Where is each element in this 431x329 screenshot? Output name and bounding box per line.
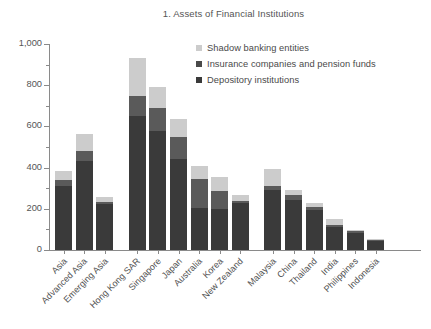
bar-segment <box>191 179 208 208</box>
bar-segment <box>170 119 187 137</box>
bar-segment <box>367 239 384 240</box>
bar-indonesia <box>367 44 384 250</box>
bar-segment <box>211 191 228 209</box>
bar-segment <box>232 201 249 203</box>
y-axis-tick <box>44 126 49 127</box>
chart-figure: 1. Assets of Financial Institutions Shad… <box>0 0 431 329</box>
x-axis-tick <box>158 250 159 254</box>
y-axis-minor-tick <box>46 147 49 148</box>
bar-segment <box>191 208 208 250</box>
bar-segment <box>129 58 146 95</box>
bar-segment <box>306 203 323 208</box>
bar-china <box>285 44 302 250</box>
x-axis-label: Malaysia <box>245 256 277 288</box>
bar-korea <box>211 44 228 250</box>
bar-segment <box>191 166 208 179</box>
y-axis-minor-tick <box>46 229 49 230</box>
x-axis-tick <box>84 250 85 254</box>
bar-segment <box>347 233 364 251</box>
x-axis-tick <box>64 250 65 254</box>
bar-segment <box>326 227 343 250</box>
bar-segment <box>211 209 228 250</box>
bar-asia <box>55 44 72 250</box>
bar-segment <box>306 207 323 209</box>
bar-segment <box>55 180 72 186</box>
bar-segment <box>264 169 281 187</box>
y-axis-tick <box>44 209 49 210</box>
bar-segment <box>306 210 323 250</box>
bar-segment <box>170 137 187 160</box>
x-axis-tick <box>137 250 138 254</box>
x-axis-tick <box>335 250 336 254</box>
y-axis-minor-tick <box>46 65 49 66</box>
bar-australia <box>191 44 208 250</box>
bar-segment <box>367 240 384 241</box>
bar-singapore <box>149 44 166 250</box>
y-axis-tick-label: 400 <box>2 162 42 172</box>
bar-segment <box>285 195 302 199</box>
x-axis-tick <box>199 250 200 254</box>
y-axis-tick <box>44 250 49 251</box>
bar-japan <box>170 44 187 250</box>
bar-advanced-asia <box>76 44 93 250</box>
x-axis-tick <box>376 250 377 254</box>
x-axis-tick <box>240 250 241 254</box>
bar-malaysia <box>264 44 281 250</box>
y-axis-tick-label: 1,000 <box>2 38 42 48</box>
bar-emerging-asia <box>96 44 113 250</box>
chart-title: 1. Assets of Financial Institutions <box>0 8 431 19</box>
bar-segment <box>149 108 166 131</box>
bar-segment <box>232 203 249 250</box>
bar-segment <box>55 186 72 250</box>
bar-segment <box>76 151 93 161</box>
bar-segment <box>264 186 281 190</box>
bar-segment <box>347 230 364 231</box>
bar-segment <box>285 200 302 250</box>
y-axis-minor-tick <box>46 106 49 107</box>
y-axis-tick-label: 0 <box>2 244 42 254</box>
bar-segment <box>232 195 249 200</box>
bar-segment <box>264 190 281 250</box>
y-axis-tick-label: 600 <box>2 120 42 130</box>
bar-thailand <box>306 44 323 250</box>
bar-segment <box>96 202 113 204</box>
y-axis-tick <box>44 44 49 45</box>
bar-india <box>326 44 343 250</box>
bar-segment <box>149 131 166 250</box>
x-axis-tick <box>105 250 106 254</box>
x-axis-tick <box>220 250 221 254</box>
bar-segment <box>76 134 93 152</box>
bar-new-zealand <box>232 44 249 250</box>
y-axis-tick <box>44 168 49 169</box>
x-axis-tick <box>314 250 315 254</box>
bar-segment <box>96 204 113 250</box>
bar-segment <box>326 225 343 227</box>
bar-segment <box>347 231 364 232</box>
bar-segment <box>367 240 384 250</box>
x-axis-tick <box>273 250 274 254</box>
bars-layer <box>49 44 421 250</box>
y-axis-tick-label: 800 <box>2 79 42 89</box>
bar-segment <box>76 161 93 250</box>
x-axis-tick <box>179 250 180 254</box>
x-axis-tick <box>294 250 295 254</box>
x-axis-tick <box>355 250 356 254</box>
y-axis-tick-label: 200 <box>2 203 42 213</box>
y-axis-tick <box>44 85 49 86</box>
bar-segment <box>149 87 166 108</box>
bar-segment <box>326 219 343 225</box>
bar-segment <box>96 197 113 202</box>
bar-hong-kong-sar <box>129 44 146 250</box>
bar-segment <box>129 96 146 117</box>
bar-segment <box>170 159 187 250</box>
bar-segment <box>55 171 72 180</box>
y-axis-tick-labels: 02004006008001,000 <box>0 0 42 329</box>
bar-segment <box>285 190 302 195</box>
bar-segment <box>129 116 146 250</box>
bar-segment <box>211 177 228 191</box>
y-axis-minor-tick <box>46 188 49 189</box>
bar-philippines <box>347 44 364 250</box>
